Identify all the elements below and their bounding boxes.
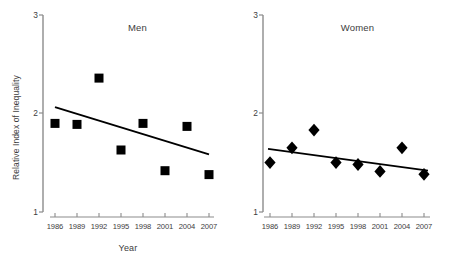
data-point-men-1989 bbox=[73, 120, 82, 129]
figure-two-panel-scatter: Men Relative Index of Inequality 3 2 1 bbox=[0, 0, 455, 265]
data-point-men-1998 bbox=[139, 119, 148, 128]
panel-men: Men Relative Index of Inequality 3 2 1 bbox=[0, 0, 227, 265]
data-point-women-1992 bbox=[308, 124, 319, 137]
data-point-women-2001 bbox=[374, 165, 385, 178]
x-tick-women-7: 2007 bbox=[411, 222, 437, 231]
data-point-men-1992 bbox=[95, 74, 104, 83]
data-point-men-2001 bbox=[161, 166, 170, 175]
data-point-men-1995 bbox=[117, 146, 126, 155]
data-point-men-2007 bbox=[205, 170, 214, 179]
data-point-women-1986 bbox=[264, 156, 275, 169]
data-point-women-2004 bbox=[396, 141, 407, 154]
data-point-men-2004 bbox=[183, 122, 192, 131]
x-tick-men-7: 2007 bbox=[196, 222, 222, 231]
x-axis-label-men: Year bbox=[48, 243, 208, 253]
panel-women: Women 3 2 1 bbox=[228, 0, 455, 265]
data-point-men-1986 bbox=[51, 119, 60, 128]
